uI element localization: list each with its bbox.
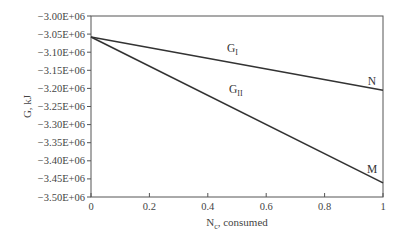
y-tick-label: −3.10E+06 xyxy=(38,47,85,58)
x-axis: 00.20.40.60.81 xyxy=(88,193,385,212)
y-tick-label: −3.40E+06 xyxy=(38,155,85,166)
endpoint-label-n: N xyxy=(368,75,377,87)
y-tick-label: −3.50E+06 xyxy=(38,192,85,203)
series-label-g-i: GI xyxy=(227,42,238,57)
series-line-g-ii xyxy=(91,37,383,183)
x-tick-label: 0 xyxy=(88,201,93,212)
y-tick-label: −3.05E+06 xyxy=(38,29,85,40)
x-axis-label: Nc, consumed xyxy=(206,216,268,231)
x-tick-label: 0.6 xyxy=(260,201,273,212)
y-tick-label: −3.20E+06 xyxy=(38,83,85,94)
series-layer xyxy=(91,37,383,183)
x-tick-label: 0.4 xyxy=(201,201,215,212)
x-tick-label: 0.2 xyxy=(143,201,156,212)
y-tick-label: −3.00E+06 xyxy=(38,11,85,22)
endpoint-label-m: M xyxy=(367,163,377,175)
y-axis: −3.00E+06−3.05E+06−3.10E+06−3.15E+06−3.2… xyxy=(38,11,91,203)
y-tick-label: −3.45E+06 xyxy=(38,173,85,184)
labels-layer: GIGIINM xyxy=(227,42,377,175)
x-axis-label-suffix: , consumed xyxy=(218,216,269,228)
chart: −3.00E+06−3.05E+06−3.10E+06−3.15E+06−3.2… xyxy=(0,0,403,242)
x-tick-label: 0.8 xyxy=(318,201,331,212)
y-tick-label: −3.30E+06 xyxy=(38,119,85,130)
series-label-g-ii: GII xyxy=(229,83,243,98)
y-tick-label: −3.35E+06 xyxy=(38,137,85,148)
y-tick-label: −3.25E+06 xyxy=(38,101,85,112)
y-axis-label: G, kJ xyxy=(21,94,33,118)
x-tick-label: 1 xyxy=(380,201,385,212)
plot-frame xyxy=(91,16,383,197)
x-axis-label-main: N xyxy=(206,216,214,228)
y-tick-label: −3.15E+06 xyxy=(38,65,85,76)
